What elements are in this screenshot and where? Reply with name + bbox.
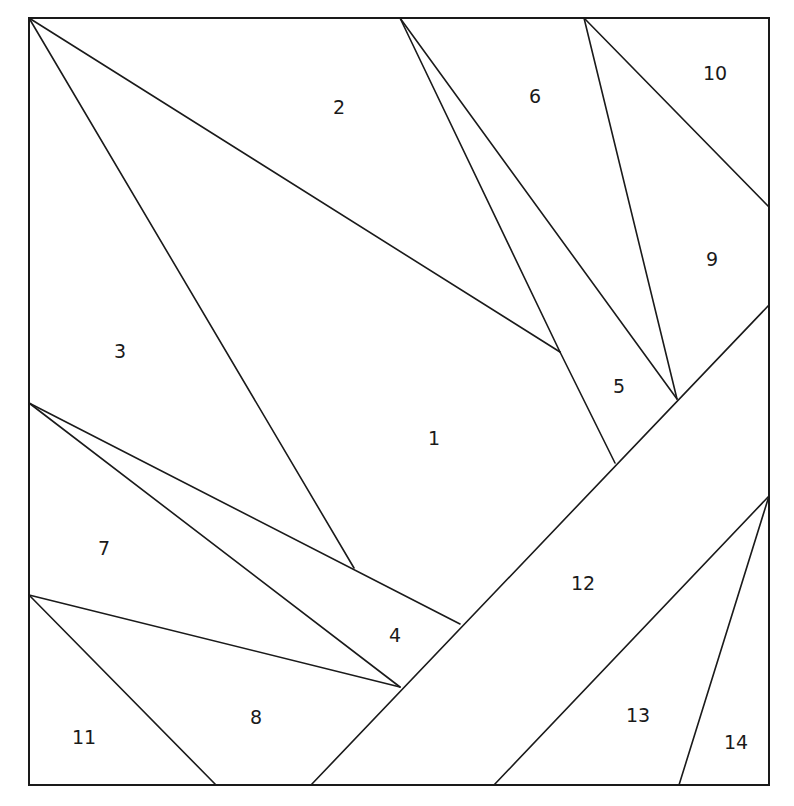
piece-label-9: 9 — [706, 250, 718, 269]
piece-label-6: 6 — [529, 87, 541, 106]
pattern-diagram — [0, 0, 794, 806]
piece-label-11: 11 — [72, 728, 96, 747]
seam-line-d — [560, 352, 615, 463]
piece-label-10: 10 — [703, 64, 727, 83]
pattern-frame — [29, 18, 769, 785]
piece-label-3: 3 — [114, 342, 126, 361]
piece-label-8: 8 — [250, 708, 262, 727]
piece-label-2: 2 — [333, 98, 345, 117]
seam-line-k — [29, 595, 400, 687]
piece-label-1: 1 — [428, 429, 440, 448]
piece-label-7: 7 — [98, 539, 110, 558]
seam-line-f — [584, 18, 677, 399]
seam-lines — [29, 18, 769, 785]
seam-line-l — [29, 595, 216, 785]
seam-line-h — [311, 305, 769, 785]
piece-label-4: 4 — [389, 626, 401, 645]
seam-line-j — [29, 403, 400, 687]
piece-label-5: 5 — [613, 377, 625, 396]
piece-label-12: 12 — [571, 574, 595, 593]
seam-line-g — [584, 18, 769, 207]
seam-line-e — [400, 18, 677, 399]
piece-label-14: 14 — [724, 733, 748, 752]
piece-label-13: 13 — [626, 706, 650, 725]
seam-line-i — [29, 403, 460, 624]
